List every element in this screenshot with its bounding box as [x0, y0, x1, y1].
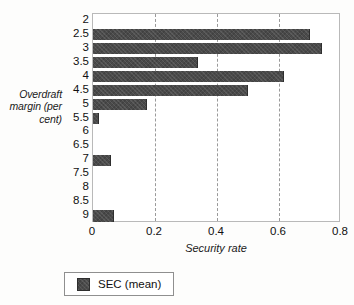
x-tick-0-6: 0.6	[270, 225, 286, 237]
y-tick-7: 7	[56, 153, 89, 165]
legend-label-sec-mean: SEC (mean)	[98, 278, 161, 290]
y-tick-2-5: 2.5	[56, 28, 89, 40]
bar-9	[93, 210, 114, 221]
bar-row	[93, 113, 339, 124]
bar-row	[93, 85, 339, 96]
bar-row	[93, 155, 339, 166]
bar-3-5	[93, 57, 198, 68]
bars-layer	[93, 14, 339, 221]
bar-row	[93, 169, 339, 180]
y-tick-3: 3	[56, 42, 89, 54]
chart-legend: SEC (mean)	[64, 272, 174, 296]
y-tick-9: 9	[56, 209, 89, 221]
y-axis-title: Overdraft margin (per cent)	[0, 88, 62, 125]
bar-3	[93, 43, 322, 54]
x-tick-0-2: 0.2	[146, 225, 162, 237]
y-tick-2: 2	[56, 14, 89, 26]
bar-5	[93, 99, 147, 110]
y-tick-8-5: 8.5	[56, 195, 89, 207]
bar-2-5	[93, 29, 310, 40]
x-axis-title: Security rate	[92, 242, 340, 254]
bar-4	[93, 71, 284, 82]
bar-5-5	[93, 113, 99, 124]
bar-row	[93, 99, 339, 110]
y-tick-4: 4	[56, 70, 89, 82]
bar-row	[93, 127, 339, 138]
bar-row	[93, 43, 339, 54]
bar-row	[93, 71, 339, 82]
bar-row	[93, 197, 339, 208]
bar-row	[93, 210, 339, 221]
legend-swatch-sec-mean	[77, 278, 90, 291]
bar-7	[93, 155, 111, 166]
bar-row	[93, 183, 339, 194]
y-tick-3-5: 3.5	[56, 56, 89, 68]
bar-row	[93, 141, 339, 152]
plot-area	[92, 13, 340, 222]
y-tick-7-5: 7.5	[56, 167, 89, 179]
x-tick-0: 0	[89, 225, 95, 237]
bar-chart-figure: Overdraft margin (per cent) 22.533.544.5…	[0, 0, 354, 305]
y-tick-4-5: 4.5	[56, 84, 89, 96]
y-tick-8: 8	[56, 181, 89, 193]
x-axis-tick-labels: 00.20.40.60.8	[92, 225, 340, 241]
x-tick-0-4: 0.4	[208, 225, 224, 237]
bar-row	[93, 57, 339, 68]
y-tick-5: 5	[56, 98, 89, 110]
x-tick-0-8: 0.8	[332, 225, 348, 237]
bar-row	[93, 15, 339, 26]
bar-4-5	[93, 85, 248, 96]
y-axis-tick-labels: 22.533.544.555.566.577.588.59	[56, 13, 89, 222]
y-tick-5-5: 5.5	[56, 112, 89, 124]
y-tick-6: 6	[56, 125, 89, 137]
y-tick-6-5: 6.5	[56, 139, 89, 151]
bar-row	[93, 29, 339, 40]
